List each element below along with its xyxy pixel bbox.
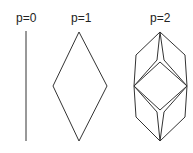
p2-figure bbox=[134, 32, 187, 141]
p1-rhombus bbox=[53, 32, 107, 141]
diagram-canvas bbox=[0, 0, 193, 153]
